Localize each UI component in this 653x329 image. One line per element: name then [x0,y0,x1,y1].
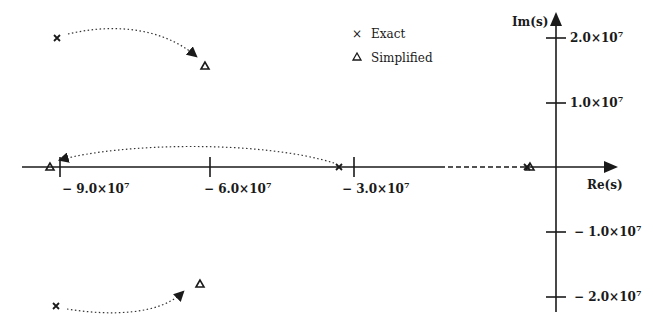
simplified-pole-marker-icon [196,280,204,287]
exact-poles [53,35,530,309]
legend-simplified-marker-icon [353,53,361,60]
y-axis-label: Im(s) [512,15,548,29]
real-axis-arrow-icon [604,161,618,173]
legend-simplified-label: Simplified [371,51,433,65]
y-tick-label-minus-1e7: − 1.0×107 [574,223,641,239]
legend: × Exact Simplified [352,27,433,65]
simplified-pole-marker-icon [201,62,209,69]
imag-axis [550,12,562,312]
y-tick-label-2e7: 2.0×107 [570,29,623,45]
simplified-poles [46,62,534,287]
y-tick-label-1e7: 1.0×107 [570,94,623,110]
upper-arrow-path [68,29,196,56]
exact-pole-marker-icon [54,35,60,41]
x-tick-label-minus-3e7: − 3.0×107 [342,180,409,196]
real-arrow-path [60,147,334,164]
x-tick-label-minus-9e7: − 9.0×107 [62,180,129,196]
exact-pole-marker-icon [53,303,59,309]
lower-arrow-path [67,292,183,313]
legend-exact-marker: × [352,27,362,41]
s-plane-chart: − 9.0×107 − 6.0×107 − 3.0×107 2.0×107 1.… [0,0,653,329]
x-axis-label: Re(s) [587,178,623,192]
y-tick-label-minus-2e7: − 2.0×107 [574,288,641,304]
legend-exact-label: Exact [371,27,405,41]
x-tick-label-minus-6e7: − 6.0×107 [204,180,271,196]
imag-axis-arrow-icon [550,12,562,26]
